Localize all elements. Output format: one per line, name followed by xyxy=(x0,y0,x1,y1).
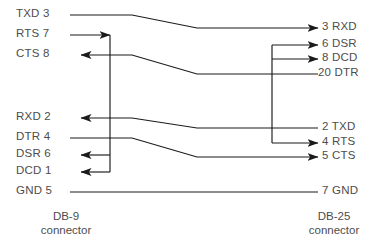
wiring-diagram: TXD 3 RTS 7 CTS 8 RXD 2 DTR 4 DSR 6 DCD … xyxy=(0,0,376,245)
right-connector-caption: DB-25 connector xyxy=(292,209,376,238)
pin-label-left-rts7: RTS 7 xyxy=(16,28,49,40)
left-connector-caption-line2: connector xyxy=(12,223,120,237)
pin-label-left-dcd1: DCD 1 xyxy=(16,165,52,177)
pin-label-right-dcd8: 8 DCD xyxy=(322,52,358,64)
pin-label-right-txd2: 2 TXD xyxy=(322,121,355,133)
pin-label-right-cts5: 5 CTS xyxy=(322,150,356,162)
pin-label-left-dsr6: DSR 6 xyxy=(16,148,51,160)
pin-label-right-rxd3: 3 RXD xyxy=(322,21,357,33)
pin-label-right-rts4: 4 RTS xyxy=(322,136,355,148)
pin-label-left-dtr4: DTR 4 xyxy=(16,131,50,143)
wire-dtr20-to-cts8 xyxy=(81,55,318,74)
pin-label-right-dtr20: 20 DTR xyxy=(318,67,359,79)
left-connector-caption: DB-9 connector xyxy=(12,209,120,238)
wire-txd3-to-rxd3 xyxy=(70,15,318,28)
pin-label-left-gnd5: GND 5 xyxy=(16,185,52,197)
left-connector-caption-line1: DB-9 xyxy=(12,209,120,223)
pin-label-left-rxd2: RXD 2 xyxy=(16,111,51,123)
pin-label-right-gnd7: 7 GND xyxy=(322,185,358,197)
right-connector-caption-line1: DB-25 xyxy=(292,209,376,223)
wire-dtr4-to-cts5 xyxy=(70,138,318,157)
wire-txd2-to-rxd2 xyxy=(81,118,318,128)
pin-label-left-cts8: CTS 8 xyxy=(16,48,50,60)
pin-label-left-txd3: TXD 3 xyxy=(16,8,50,20)
pin-label-right-dsr6: 6 DSR xyxy=(322,38,357,50)
right-connector-caption-line2: connector xyxy=(292,223,376,237)
